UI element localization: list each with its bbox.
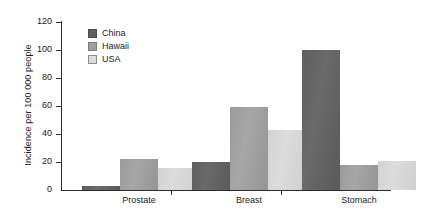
y-tick-label-40-wrap: 40 xyxy=(22,134,52,135)
y-tick-label-120-wrap: 120 xyxy=(22,22,52,23)
y-tick-label-60-wrap: 60 xyxy=(22,106,52,107)
y-tick-label-0: 0 xyxy=(26,184,52,194)
legend-item-china: China xyxy=(88,27,129,39)
legend-label-usa: USA xyxy=(102,54,121,64)
bar-stomach-china xyxy=(302,50,340,190)
legend-item-usa: USA xyxy=(88,53,129,65)
y-tick-label-80-wrap: 80 xyxy=(22,78,52,79)
x-group-label-prostate: Prostate xyxy=(99,195,179,205)
legend-item-hawaii: Hawaii xyxy=(88,40,129,52)
legend-swatch-china-icon xyxy=(88,29,97,38)
bar-prostate-china xyxy=(82,186,120,190)
legend-label-hawaii: Hawaii xyxy=(102,41,129,51)
bar-chart: Incidence per 100 000 people 120 100 80 … xyxy=(0,0,422,215)
y-tick-label-120: 120 xyxy=(26,16,52,26)
y-tick-label-40: 40 xyxy=(26,128,52,138)
legend-label-china: China xyxy=(102,28,126,38)
bar-breast-hawaii xyxy=(230,107,268,190)
legend: China Hawaii USA xyxy=(88,27,129,66)
y-tick-label-20: 20 xyxy=(26,156,52,166)
bar-breast-china xyxy=(192,162,230,190)
y-tick-label-20-wrap: 20 xyxy=(22,162,52,163)
bar-prostate-hawaii xyxy=(120,159,158,190)
legend-swatch-usa-icon xyxy=(88,55,97,64)
legend-swatch-hawaii-icon xyxy=(88,42,97,51)
bar-breast-usa xyxy=(268,130,306,190)
bar-prostate-usa xyxy=(158,168,196,190)
bar-stomach-usa xyxy=(378,161,416,190)
x-axis-line xyxy=(61,190,391,191)
y-tick-label-0-wrap: 0 xyxy=(22,190,52,191)
x-group-label-breast: Breast xyxy=(209,195,289,205)
y-tick-label-80: 80 xyxy=(26,72,52,82)
y-tick-label-100-wrap: 100 xyxy=(22,50,52,51)
y-tick-label-100: 100 xyxy=(26,44,52,54)
bar-stomach-hawaii xyxy=(340,165,378,190)
y-tick-label-60: 60 xyxy=(26,100,52,110)
x-group-label-stomach: Stomach xyxy=(319,195,399,205)
